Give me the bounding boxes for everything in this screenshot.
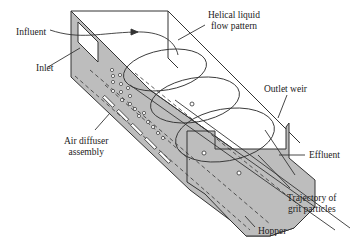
label-helical-line1: Helical liquid [208,10,260,21]
label-air-line1: Air diffuser [64,136,108,147]
label-trajectory: Trajectory of grit particles [287,193,337,215]
label-air-line2: assembly [64,147,108,158]
label-trajectory-line1: Trajectory of [287,193,337,204]
label-inlet: Inlet [36,63,53,74]
label-trajectory-line2: grit particles [287,204,337,215]
label-influent: Influent [16,27,46,38]
label-air-diffuser: Air diffuser assembly [64,136,108,158]
label-hopper: Hopper [258,226,287,237]
label-outlet-weir: Outlet weir [264,84,307,95]
label-effluent: Effluent [309,150,340,161]
label-helical-line2: flow pattern [208,21,260,32]
outlet-end [187,123,315,236]
label-helical-flow: Helical liquid flow pattern [208,10,260,32]
